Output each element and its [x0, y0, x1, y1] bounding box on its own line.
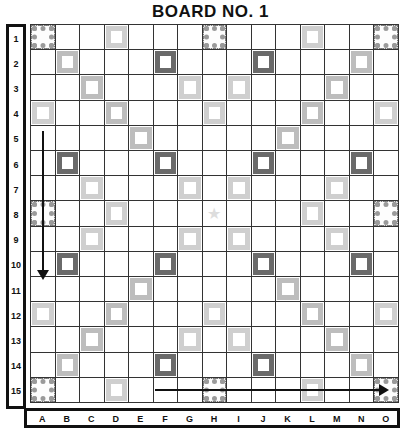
board-square[interactable]: [350, 75, 375, 100]
board-square[interactable]: [154, 126, 179, 151]
board-square[interactable]: [80, 353, 105, 378]
board-square[interactable]: [56, 126, 81, 151]
board-square[interactable]: [276, 101, 301, 126]
board-square[interactable]: [203, 277, 228, 302]
triple-word-square[interactable]: [374, 25, 399, 50]
board-square[interactable]: [31, 353, 56, 378]
board-square[interactable]: [227, 353, 252, 378]
board-square[interactable]: [227, 201, 252, 226]
double-letter-square[interactable]: [178, 327, 203, 352]
board-square[interactable]: [276, 176, 301, 201]
board-square[interactable]: [227, 277, 252, 302]
board-square[interactable]: [80, 378, 105, 403]
triple-letter-square[interactable]: [154, 50, 179, 75]
board-square[interactable]: [178, 50, 203, 75]
board-square[interactable]: [154, 227, 179, 252]
board-square[interactable]: [350, 227, 375, 252]
board-square[interactable]: [129, 327, 154, 352]
board-square[interactable]: [129, 227, 154, 252]
double-letter-square[interactable]: [325, 176, 350, 201]
board-square[interactable]: [80, 50, 105, 75]
board-square[interactable]: [129, 101, 154, 126]
board-square[interactable]: [105, 75, 130, 100]
double-letter-square[interactable]: [105, 378, 130, 403]
double-word-square[interactable]: [105, 302, 130, 327]
triple-letter-square[interactable]: [154, 353, 179, 378]
double-word-square[interactable]: [129, 277, 154, 302]
board-square[interactable]: [154, 277, 179, 302]
board-square[interactable]: [129, 302, 154, 327]
board-square[interactable]: [301, 227, 326, 252]
board-square[interactable]: [227, 151, 252, 176]
board-square[interactable]: [301, 176, 326, 201]
double-letter-square[interactable]: [80, 176, 105, 201]
board-square[interactable]: [276, 151, 301, 176]
board-square[interactable]: [350, 277, 375, 302]
board-square[interactable]: [252, 75, 277, 100]
double-letter-square[interactable]: [301, 201, 326, 226]
board-square[interactable]: [276, 327, 301, 352]
double-letter-square[interactable]: [105, 25, 130, 50]
board-square[interactable]: [154, 327, 179, 352]
board-square[interactable]: [105, 50, 130, 75]
board-square[interactable]: [227, 252, 252, 277]
board-square[interactable]: [374, 227, 399, 252]
board-square[interactable]: [56, 378, 81, 403]
board-square[interactable]: [252, 302, 277, 327]
board-square[interactable]: [325, 302, 350, 327]
board-square[interactable]: [80, 151, 105, 176]
board-square[interactable]: [325, 126, 350, 151]
double-letter-square[interactable]: [227, 227, 252, 252]
board-square[interactable]: [203, 75, 228, 100]
board-square[interactable]: [252, 101, 277, 126]
board-square[interactable]: [374, 176, 399, 201]
double-word-square[interactable]: [325, 75, 350, 100]
double-word-square[interactable]: [56, 353, 81, 378]
board-square[interactable]: [178, 126, 203, 151]
board-square[interactable]: [129, 176, 154, 201]
board-square[interactable]: [252, 176, 277, 201]
double-word-square[interactable]: [276, 277, 301, 302]
board-square[interactable]: [105, 126, 130, 151]
double-word-square[interactable]: [276, 126, 301, 151]
triple-letter-square[interactable]: [154, 252, 179, 277]
board-square[interactable]: [301, 50, 326, 75]
board-square[interactable]: [203, 126, 228, 151]
board-square[interactable]: [105, 176, 130, 201]
double-word-square[interactable]: [325, 327, 350, 352]
board-square[interactable]: [56, 101, 81, 126]
board-square[interactable]: [350, 126, 375, 151]
board-square[interactable]: [129, 151, 154, 176]
board-square[interactable]: [56, 25, 81, 50]
board-square[interactable]: [252, 327, 277, 352]
board-square[interactable]: [80, 101, 105, 126]
board-square[interactable]: [325, 151, 350, 176]
board-square[interactable]: [129, 378, 154, 403]
board-square[interactable]: [350, 101, 375, 126]
board-square[interactable]: [374, 50, 399, 75]
board-square[interactable]: [154, 75, 179, 100]
board-square[interactable]: [301, 327, 326, 352]
board-square[interactable]: [129, 25, 154, 50]
board-square[interactable]: [374, 75, 399, 100]
board-square[interactable]: [276, 50, 301, 75]
board-square[interactable]: [105, 227, 130, 252]
board-square[interactable]: [56, 277, 81, 302]
board-square[interactable]: [374, 353, 399, 378]
board-square[interactable]: [203, 227, 228, 252]
board-square[interactable]: [252, 227, 277, 252]
board-square[interactable]: [178, 302, 203, 327]
board-square[interactable]: [154, 201, 179, 226]
board-square[interactable]: [301, 151, 326, 176]
board-square[interactable]: [227, 25, 252, 50]
double-letter-square[interactable]: [227, 327, 252, 352]
board-square[interactable]: [80, 201, 105, 226]
triple-letter-square[interactable]: [252, 151, 277, 176]
triple-word-square[interactable]: [31, 378, 56, 403]
board-square[interactable]: [276, 353, 301, 378]
board-square[interactable]: [178, 353, 203, 378]
double-word-square[interactable]: [350, 353, 375, 378]
board-square[interactable]: [374, 151, 399, 176]
board-square[interactable]: [227, 101, 252, 126]
board-square[interactable]: [350, 327, 375, 352]
